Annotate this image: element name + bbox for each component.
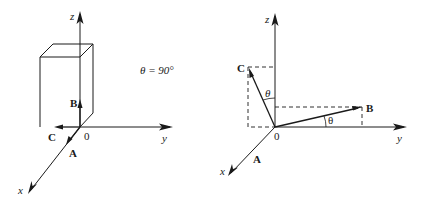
- box-top-face: [40, 44, 93, 57]
- x-axis: [231, 127, 275, 173]
- vector-a-label: A: [69, 147, 77, 159]
- x-axis-label: x: [219, 165, 225, 177]
- box-front-face: [40, 57, 80, 127]
- vector-c: [250, 71, 275, 127]
- angle-label-y-b: θ: [328, 114, 333, 126]
- y-axis-label: y: [161, 132, 167, 144]
- x-axis-label: x: [17, 184, 23, 196]
- vector-b-label: B: [70, 97, 78, 109]
- x-axis-arrowhead: [228, 164, 238, 176]
- angle-label-z-c: θ: [265, 87, 271, 99]
- vector-b: [275, 108, 358, 127]
- z-axis-label: z: [69, 10, 75, 22]
- angle-arc-y-b: [324, 116, 326, 127]
- right-panel: z y x 0 C B A θ θ: [219, 13, 407, 177]
- origin-label: 0: [84, 130, 90, 142]
- vector-c-label: C: [237, 62, 245, 74]
- origin-label: 0: [274, 130, 280, 142]
- box-right-face: [80, 44, 93, 127]
- y-axis-label: y: [396, 132, 402, 144]
- vector-c-arrowhead: [249, 68, 254, 78]
- angle-annotation: θ = 90°: [140, 64, 174, 76]
- vector-a-label: A: [253, 153, 261, 165]
- z-axis-label: z: [264, 13, 270, 25]
- vector-c-arrowhead: [54, 125, 63, 130]
- vector-diagram-figure: z y x 0 B C A θ = 90°: [0, 0, 426, 202]
- vector-c-label: C: [48, 131, 56, 143]
- vector-b-label: B: [366, 102, 374, 114]
- box-prism: [40, 44, 93, 127]
- x-axis-arrowhead: [28, 181, 37, 194]
- vector-b-arrowhead: [78, 99, 83, 108]
- left-panel: z y x 0 B C A θ = 90°: [17, 10, 174, 196]
